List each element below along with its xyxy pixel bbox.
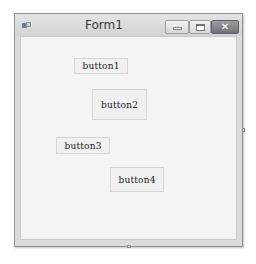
button3[interactable]: button3 [56,137,110,154]
form1-window: Form1 ✕ button1 button2 button3 button4 [14,13,243,247]
button1[interactable]: button1 [74,58,128,74]
maximize-icon [196,24,205,31]
button2[interactable]: button2 [92,89,147,120]
resize-handle-right[interactable] [242,128,245,132]
maximize-button[interactable] [189,20,211,34]
resize-handle-bottom[interactable] [127,245,131,248]
minimize-button[interactable] [165,20,189,34]
form-app-icon[interactable] [22,22,30,29]
close-button[interactable]: ✕ [211,20,239,34]
title-bar[interactable]: Form1 ✕ [15,14,242,36]
window-title: Form1 [85,18,123,32]
minimize-icon [173,27,182,30]
form-client-area: button1 button2 button3 button4 [20,36,237,240]
close-icon: ✕ [221,22,229,32]
button4[interactable]: button4 [110,167,164,192]
